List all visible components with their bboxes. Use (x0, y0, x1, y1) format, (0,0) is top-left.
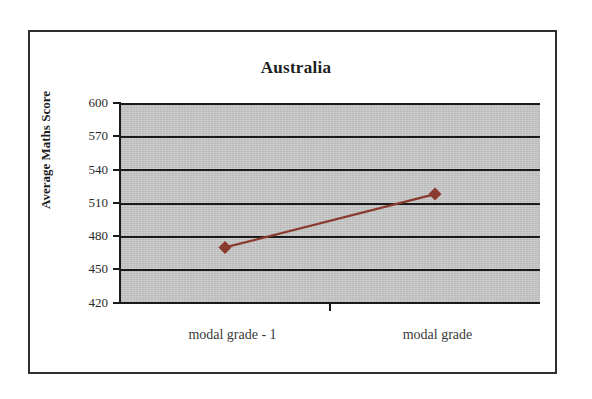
y-tick-label-480: 480 (68, 229, 108, 242)
data-point-marker-0 (219, 241, 232, 254)
data-point-marker-1 (429, 188, 442, 201)
chart-title: Australia (0, 58, 592, 78)
x-category-label-modal-grade: modal grade (365, 327, 510, 343)
y-tick-label-600: 600 (68, 96, 108, 109)
y-tick-mark-600 (113, 102, 120, 104)
y-tick-label-510: 510 (68, 196, 108, 209)
series-connector-line (225, 194, 435, 247)
chart-figure: Australia Average Maths Score 600 570 54… (0, 0, 592, 399)
y-tick-mark-570 (113, 135, 120, 137)
y-tick-label-450: 450 (68, 262, 108, 275)
y-tick-label-540: 540 (68, 163, 108, 176)
y-axis-title: Average Maths Score (38, 60, 54, 240)
y-tick-label-570: 570 (68, 129, 108, 142)
x-category-label-modal-grade-minus-1: modal grade - 1 (155, 327, 310, 343)
y-tick-label-420: 420 (68, 296, 108, 309)
y-tick-mark-420 (113, 302, 120, 304)
y-tick-mark-510 (113, 202, 120, 204)
y-tick-mark-480 (113, 235, 120, 237)
data-series-line (120, 103, 540, 303)
y-tick-mark-450 (113, 268, 120, 270)
x-tick-mark-center (329, 304, 331, 311)
y-tick-mark-540 (113, 169, 120, 171)
